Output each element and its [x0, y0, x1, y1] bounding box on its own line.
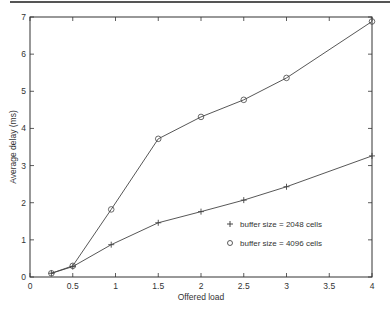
x-tick-label: 3: [284, 281, 289, 291]
x-tick-label: 2.5: [238, 281, 250, 291]
y-tick-label: 2: [21, 198, 26, 208]
line-chart: 00.511.522.533.54 01234567 Offered load …: [0, 0, 390, 311]
y-tick-label: 3: [21, 161, 26, 171]
legend-entry-4096: buffer size = 4096 cells: [240, 239, 322, 248]
y-tick-label: 0: [21, 272, 26, 282]
x-tick-label: 0.5: [67, 281, 79, 291]
plus-marker-icon: [241, 197, 247, 203]
y-tick-labels: 01234567: [21, 12, 26, 282]
x-tick-label: 1: [113, 281, 118, 291]
y-tick-label: 7: [21, 12, 26, 22]
plus-marker-icon: [369, 153, 375, 159]
y-tick-label: 5: [21, 86, 26, 96]
x-tick-label: 3.5: [323, 281, 335, 291]
x-tick-label: 1.5: [152, 281, 164, 291]
x-tick-label: 2: [199, 281, 204, 291]
series-lines: [51, 21, 372, 273]
legend-circle-icon: [228, 241, 233, 246]
y-tick-label: 1: [21, 235, 26, 245]
legend-plus-icon: [227, 221, 233, 227]
plus-marker-icon: [155, 220, 161, 226]
x-tick-labels: 00.511.522.533.54: [28, 281, 375, 291]
x-tick-label: 4: [370, 281, 375, 291]
series-markers: [48, 19, 375, 277]
x-axis-label: Offered load: [178, 292, 225, 302]
y-tick-label: 4: [21, 123, 26, 133]
series-line: [51, 156, 372, 273]
y-tick-label: 6: [21, 49, 26, 59]
x-tick-label: 0: [28, 281, 33, 291]
plot-area-frame: [30, 17, 372, 277]
legend-entry-2048: buffer size = 2048 cells: [240, 220, 322, 229]
plus-marker-icon: [284, 184, 290, 190]
series-line: [51, 21, 372, 273]
y-axis-label: Average delay (ms): [8, 110, 18, 184]
legend: buffer size = 2048 cells buffer size = 4…: [227, 220, 322, 248]
plus-marker-icon: [198, 209, 204, 215]
plus-marker-icon: [108, 242, 114, 248]
axis-ticks: [30, 17, 372, 277]
